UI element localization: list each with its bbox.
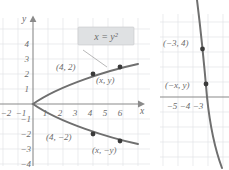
left-graph-panel: x y 1 2 3 4 5 6 −2 −1 1 2 3 4 −1 −2 −3 −… (0, 0, 150, 170)
right-x-tick-neg3: −3 (193, 101, 204, 111)
y-tick-neg4: −4 (20, 159, 31, 169)
x-tick-neg2: −2 (1, 108, 12, 118)
right-graph-panel: −5 −4 −3 (−3, 4) (−x, y) (160, 0, 229, 170)
y-tick-4: 4 (25, 39, 30, 49)
y-tick-neg3: −3 (20, 144, 31, 154)
point-negx-y (204, 82, 209, 87)
x-tick-5: 5 (103, 108, 108, 118)
leader-line (83, 50, 107, 67)
point-label-x-negy: (x, −y) (92, 145, 117, 155)
equation-label: x = y² (93, 31, 119, 42)
x-axis-label: x (139, 106, 145, 116)
point-label-x-y: (x, y) (96, 75, 114, 85)
point-4-2 (91, 72, 96, 77)
point-label-negx-y: (−x, y) (165, 80, 190, 90)
y-tick-neg1: −1 (20, 114, 31, 124)
right-x-tick-neg4: −4 (180, 101, 191, 111)
x-tick-3: 3 (72, 108, 78, 118)
y-tick-1: 1 (25, 84, 30, 94)
right-curve (197, 0, 222, 168)
y-tick-3: 3 (24, 54, 30, 64)
x-tick-2: 2 (58, 108, 63, 118)
point-x-y (118, 65, 123, 70)
y-tick-2: 2 (25, 69, 30, 79)
right-x-tick-neg5: −5 (167, 101, 178, 111)
left-graph-svg: x y 1 2 3 4 5 6 −2 −1 1 2 3 4 −1 −2 −3 −… (0, 0, 150, 170)
point-label-4-neg2: (4, −2) (46, 132, 72, 142)
y-axis-arrow (30, 16, 37, 23)
y-tick-neg2: −2 (20, 129, 31, 139)
y-axis-label: y (21, 14, 27, 24)
point-label-4-2: (4, 2) (56, 62, 76, 72)
x-tick-6: 6 (118, 108, 123, 118)
point-4-neg2 (91, 132, 96, 137)
right-graph-svg: −5 −4 −3 (−3, 4) (−x, y) (160, 0, 229, 170)
point-label-neg3-4: (−3, 4) (163, 38, 189, 48)
x-tick-4: 4 (88, 108, 93, 118)
point-x-negy (118, 139, 123, 144)
point-neg3-4 (200, 47, 205, 52)
